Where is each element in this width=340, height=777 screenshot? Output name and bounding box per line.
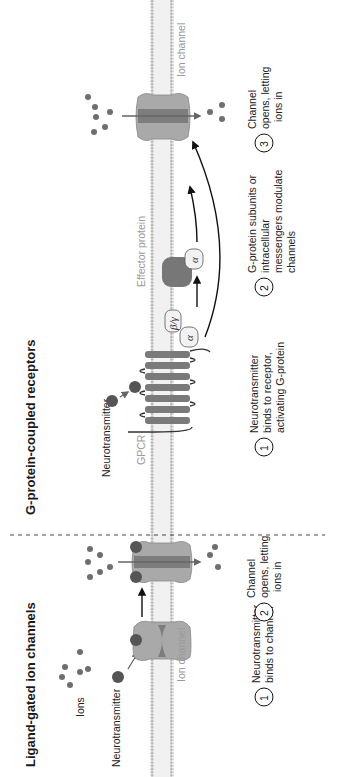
svg-text:messengers modulate: messengers modulate [272,170,284,273]
gpcr-label: GPCR [135,434,147,465]
synaptic-receptor-diagram: Ligand-gated ion channels Ions Neurotran… [0,0,340,777]
beta-gamma-subunit-label: β/γ [167,316,179,331]
effector-protein-label: Effector protein [135,216,147,287]
signaling-arrows [190,142,220,337]
left-ion-channel-label: Ion channel [175,628,187,682]
svg-text:Channel: Channel [245,559,257,598]
right-panel-title: G-protein-coupled receptors [23,339,38,515]
open-ion-channel [118,541,200,583]
svg-text:2: 2 [258,285,270,291]
right-ion-channel-label: Ion channel [175,23,187,77]
svg-text:α: α [188,257,200,263]
right-step-1: 1 Neurotransmitter binds to receptor, ac… [248,342,286,456]
alpha-subunit-label: α [183,335,195,341]
svg-text:activating G-protein: activating G-protein [274,342,286,433]
diagram-stage: Ligand-gated ion channels Ions Neurotran… [0,0,340,777]
svg-text:binds to receptor,: binds to receptor, [261,352,273,433]
free-ions-left [59,649,91,688]
svg-text:1: 1 [258,445,270,451]
left-neurotransmitter-label: Neurotransmitter [110,688,122,767]
right-ion-channel [122,93,200,140]
right-neurotransmitter-label: Neurotransmitter [100,398,112,477]
svg-text:3: 3 [258,141,270,147]
svg-text:opens, letting: opens, letting [259,66,271,129]
svg-text:1: 1 [258,695,270,701]
gpcr-ligand-icon [106,395,118,407]
right-step-3: 3 Channel opens, letting ions in [246,66,284,152]
svg-text:ions in: ions in [271,561,283,592]
svg-text:G-protein subunits or: G-protein subunits or [246,174,258,273]
svg-text:intracellular: intracellular [259,219,271,273]
svg-text:ions in: ions in [272,91,284,122]
gpcr-binding-arrow-icon [120,392,128,397]
svg-text:Channel: Channel [246,90,258,129]
svg-text:Neurotransmitter: Neurotransmitter [248,354,260,433]
ions-label: Ions [74,697,86,717]
left-panel-title: Ligand-gated ion channels [23,602,38,767]
right-step-2: 2 G-protein subunits or intracellular me… [246,170,297,296]
neurotransmitter-ligand-icon [112,671,124,683]
svg-text:channels: channels [285,231,297,273]
svg-text:2: 2 [258,610,270,616]
svg-text:opens, letting: opens, letting [258,535,270,598]
